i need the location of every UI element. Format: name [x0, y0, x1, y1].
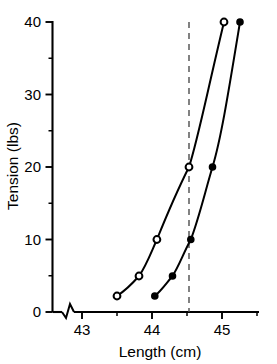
data-point-open-2 — [136, 273, 143, 280]
data-point-open-1 — [114, 293, 121, 300]
x-axis-break-icon — [62, 304, 74, 318]
chart-plot-area: 0 10 20 30 40 43 44 45 Tension (lbs) Len… — [0, 0, 277, 364]
filled-circle-series-curve — [155, 22, 240, 296]
data-point-filled-3 — [188, 237, 194, 243]
open-circle-series-curve — [117, 22, 224, 296]
y-tick-label-0: 0 — [33, 303, 41, 320]
x-tick-label-44: 44 — [144, 321, 161, 338]
data-point-open-3 — [154, 236, 161, 243]
x-tick-label-43: 43 — [74, 321, 91, 338]
open-circle-markers — [114, 19, 228, 300]
data-point-filled-1 — [152, 293, 158, 299]
y-tick-label-30: 30 — [24, 86, 41, 103]
filled-circle-markers — [152, 19, 243, 299]
data-point-filled-4 — [210, 164, 216, 170]
y-tick-label-20: 20 — [24, 158, 41, 175]
y-axis-title: Tension (lbs) — [4, 122, 21, 210]
y-tick-label-40: 40 — [24, 13, 41, 30]
data-point-filled-2 — [170, 273, 176, 279]
x-axis-title: Length (cm) — [119, 343, 202, 360]
data-point-open-4 — [186, 164, 193, 171]
data-point-open-5 — [221, 19, 228, 26]
tension-vs-length-chart: 0 10 20 30 40 43 44 45 Tension (lbs) Len… — [0, 0, 277, 364]
data-point-filled-5 — [237, 19, 243, 25]
y-tick-label-10: 10 — [24, 231, 41, 248]
x-tick-label-45: 45 — [214, 321, 231, 338]
